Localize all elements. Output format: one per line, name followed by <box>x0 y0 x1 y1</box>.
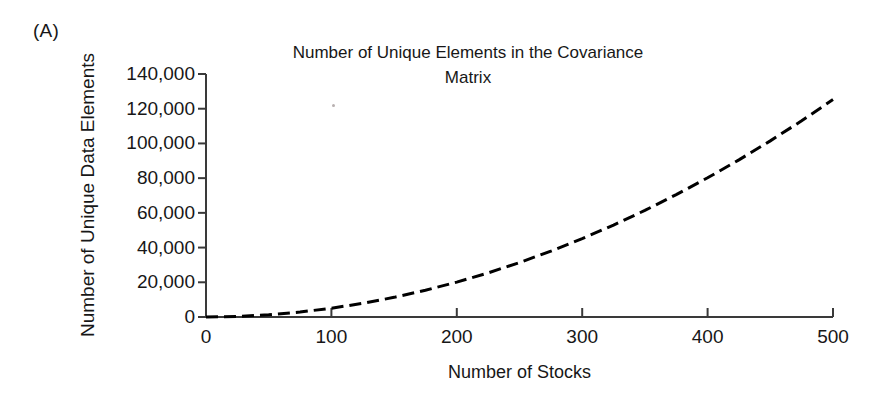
x-axis-tick-label: 100 <box>316 326 348 348</box>
x-axis-tick-label: 200 <box>441 326 473 348</box>
x-axis-tick-label: 300 <box>566 326 598 348</box>
x-axis-tick-label: 0 <box>201 326 212 348</box>
x-axis-tick-label: 400 <box>692 326 724 348</box>
x-axis-tick-label: 500 <box>817 326 849 348</box>
x-axis-tick-labels: 0100200300400500 <box>0 0 893 403</box>
chart-figure: (A) Number of Unique Elements in the Cov… <box>0 0 893 403</box>
